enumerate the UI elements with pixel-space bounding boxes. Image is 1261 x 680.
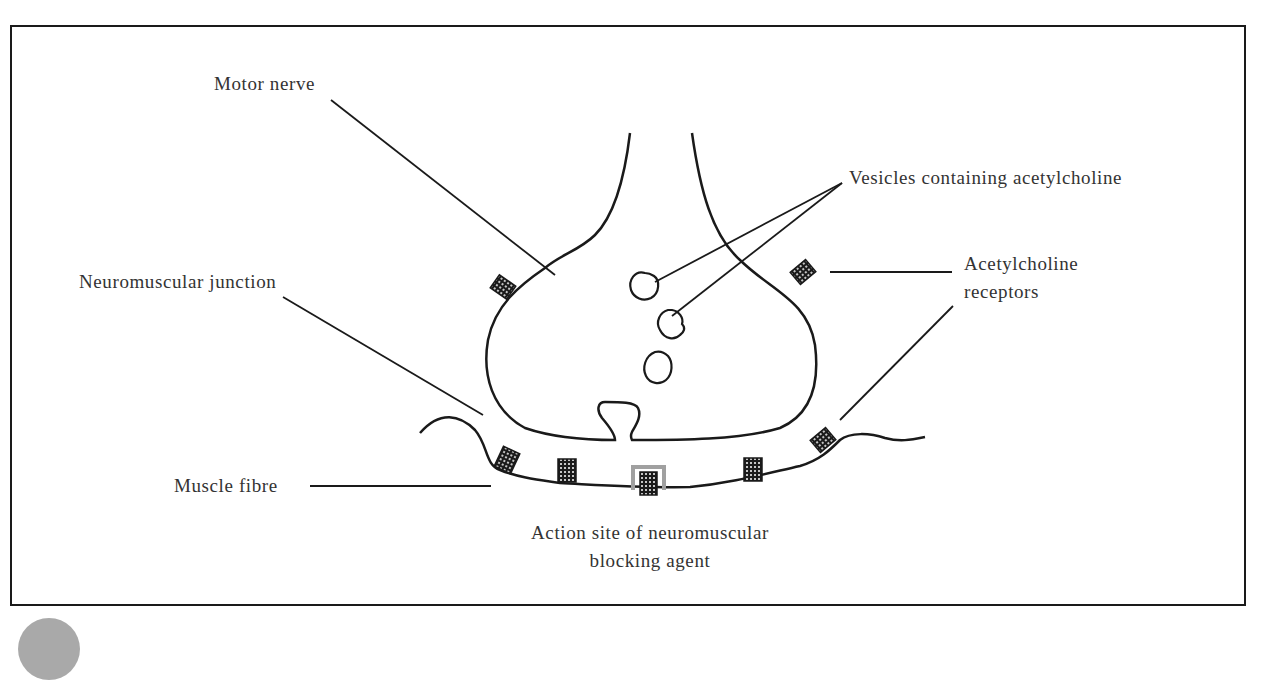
leader-vesicles-2 (672, 183, 842, 316)
label-neuromuscular-junction: Neuromuscular junction (79, 270, 276, 294)
label-receptors-line1: Acetylcholine (964, 252, 1078, 276)
muscle-fibre-outline (420, 417, 925, 487)
receptor-muscle-2 (558, 459, 576, 482)
label-vesicles: Vesicles containing acetylcholine (849, 166, 1122, 190)
label-action-site-line2: blocking agent (480, 549, 820, 573)
label-receptors-line2: receptors (964, 280, 1039, 304)
label-muscle-fibre: Muscle fibre (174, 474, 278, 498)
vesicle-2 (658, 310, 684, 338)
decorative-circle (18, 618, 80, 680)
receptor-nerve-right (790, 259, 816, 284)
leader-receptors-bottom (840, 306, 953, 420)
vesicle-1 (630, 272, 658, 299)
leader-neuromuscular-junction (283, 297, 483, 415)
receptor-muscle-4 (744, 458, 762, 481)
vesicle-3 (644, 352, 671, 383)
label-action-site-line1: Action site of neuromuscular (480, 521, 820, 545)
nerve-terminal-outline (486, 133, 816, 440)
leader-motor-nerve (331, 100, 555, 275)
label-motor-nerve: Motor nerve (214, 72, 315, 96)
blocking-agent-site (633, 467, 664, 495)
